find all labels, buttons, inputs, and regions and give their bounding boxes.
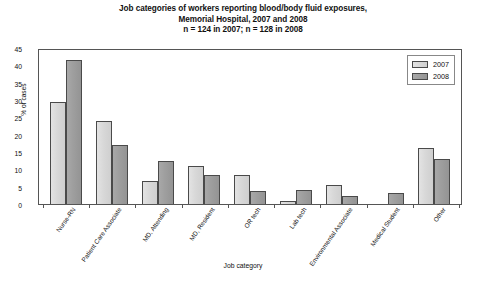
x-axis-category-label: OR tech <box>216 206 262 268</box>
bar-2008[interactable] <box>388 193 404 204</box>
bar-group <box>227 50 273 204</box>
bar-2007[interactable] <box>142 181 158 204</box>
x-axis-category-label: Nurse-RN <box>31 206 77 268</box>
bar-group <box>181 50 227 204</box>
bar-2007[interactable] <box>326 185 342 204</box>
chart-title: Job categories of workers reporting bloo… <box>0 4 486 36</box>
x-axis-title: Job category <box>0 262 486 269</box>
bar-2008[interactable] <box>112 145 128 204</box>
chart-title-line-1: Job categories of workers reporting bloo… <box>0 4 486 15</box>
x-axis-category-label: Other <box>401 206 447 268</box>
y-axis-tick-label: 15 <box>0 150 22 157</box>
x-axis-category-labels: Nurse-RNPatient Care AssociateMD, Attend… <box>38 206 462 258</box>
y-axis-tick-label: 20 <box>0 132 22 139</box>
bar-2008[interactable] <box>66 60 82 204</box>
bar-group <box>273 50 319 204</box>
bar-group <box>365 50 411 204</box>
plot-area: 2007 2008 <box>38 49 462 205</box>
bar-2008[interactable] <box>158 161 174 204</box>
bar-2007[interactable] <box>96 121 112 204</box>
chart-legend: 2007 2008 <box>407 55 455 85</box>
x-axis-category-label: MD, Resident <box>170 206 216 268</box>
bar-group <box>135 50 181 204</box>
bar-2008[interactable] <box>434 159 450 204</box>
bar-group <box>89 50 135 204</box>
x-axis-category-label: Lab tech <box>262 206 308 268</box>
bar-2007[interactable] <box>418 148 434 205</box>
y-axis-tick-label: 30 <box>0 98 22 105</box>
bar-group <box>43 50 89 204</box>
legend-item-2008: 2008 <box>412 71 449 81</box>
y-axis-tick-label: 45 <box>0 46 22 53</box>
bar-2008[interactable] <box>342 196 358 204</box>
bar-2007[interactable] <box>234 175 250 204</box>
chart-title-line-3: n = 124 in 2007; n = 128 in 2008 <box>0 25 486 36</box>
legend-swatch-2008 <box>412 73 428 80</box>
legend-label-2008: 2008 <box>433 72 449 81</box>
x-axis-category-label: Environmental Associate <box>308 206 354 268</box>
y-axis-tick-label: 5 <box>0 184 22 191</box>
y-axis-tick-label: 35 <box>0 80 22 87</box>
legend-item-2007: 2007 <box>412 59 449 69</box>
legend-swatch-2007 <box>412 61 428 68</box>
bar-2008[interactable] <box>296 190 312 204</box>
chart-page: Job categories of workers reporting bloo… <box>0 0 486 283</box>
x-axis-category-label: MD, Attending <box>123 206 169 268</box>
x-axis-category-label: Medical Student <box>355 206 401 268</box>
y-axis-tick-label: 10 <box>0 167 22 174</box>
bar-2007[interactable] <box>280 201 296 204</box>
y-axis-tick-label: 40 <box>0 63 22 70</box>
bar-2007[interactable] <box>50 102 66 204</box>
bar-2007[interactable] <box>188 166 204 204</box>
y-axis-tick-label: 0 <box>0 202 22 209</box>
bar-2008[interactable] <box>204 175 220 204</box>
chart-title-line-2: Memorial Hospital, 2007 and 2008 <box>0 15 486 26</box>
x-axis-category-label: Patient Care Associate <box>77 206 123 268</box>
y-axis-tick-label: 25 <box>0 115 22 122</box>
bar-2008[interactable] <box>250 191 266 204</box>
legend-label-2007: 2007 <box>433 60 449 69</box>
bar-groups <box>39 50 461 204</box>
bar-group <box>319 50 365 204</box>
